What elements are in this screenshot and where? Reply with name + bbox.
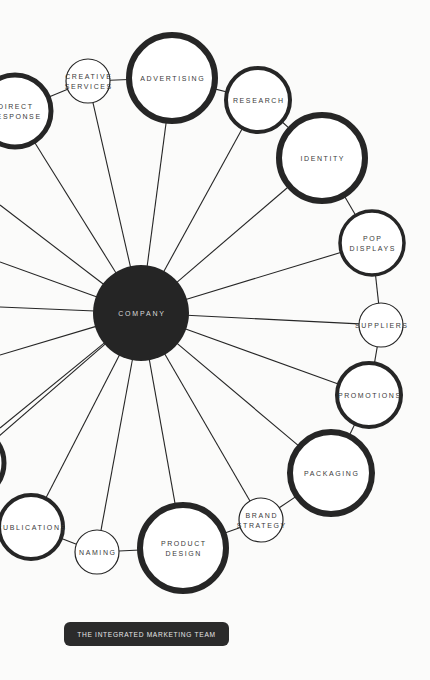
spoke-naming [101,358,133,530]
spoke-offscreen [0,307,95,311]
node-offscreen-node [0,427,4,499]
node-label: POP [363,235,383,242]
node-research: RESEARCH [226,68,290,132]
ring-link-direct-response-creative-services [48,89,67,97]
node-label: BRAND [246,512,279,519]
node-identity: IDENTITY [279,115,365,201]
node-label: CREATIVE [65,73,112,80]
node-label: PRODUCT [161,540,207,547]
node-pop-displays: POPDISPLAYS [340,211,404,275]
node-label: DESIGN [166,550,202,557]
node-direct-response: DIRECTRESPONSE [0,75,51,147]
spoke-publications [46,354,120,499]
node-suppliers: SUPPLIERS [355,303,409,347]
spoke-advertising [147,121,166,268]
hub-company: COMPANY [93,265,189,361]
node-circle [239,498,283,542]
spoke-creative-services [93,102,131,268]
ring-link-suppliers-promotions [374,347,377,364]
spoke-direct-response [34,142,117,274]
nodes: DIRECTRESPONSECREATIVESERVICESADVERTISIN… [0,35,409,591]
node-label: PUBLICATIONS [0,524,67,531]
node-label: SUPPLIERS [355,322,409,329]
ring-link-product-design-naming [119,550,140,551]
node-naming: NAMING [75,530,119,574]
spoke-product-design [149,358,175,505]
node-label: SERVICES [65,83,113,90]
hub-label: COMPANY [118,310,165,317]
node-circle [340,211,404,275]
spoke-offscreen-node [0,343,106,439]
node-label: RESEARCH [233,97,285,104]
spoke-pop-displays [185,252,341,299]
node-packaging: PACKAGING [290,432,372,514]
spoke-suppliers [187,315,359,324]
spoke-offscreen [0,326,97,355]
node-publications: PUBLICATIONS [0,495,67,559]
caption-label: THE INTEGRATED MARKETING TEAM [77,631,215,638]
spoke-identity [176,186,289,283]
spoke-packaging [176,343,299,447]
ring-link-packaging-brand-strategy [279,496,297,508]
node-label: ADVERTISING [140,75,205,82]
spoke-offscreen [0,342,105,428]
node-circle [140,505,226,591]
spoke-research [163,128,242,273]
spoke-brand-strategy [164,353,250,501]
node-promotions: PROMOTIONS [337,363,402,427]
node-circle [66,59,110,103]
node-label: DIRECT [0,103,34,110]
ring-link-pop-displays-suppliers [375,275,378,303]
node-label: PROMOTIONS [338,392,402,399]
node-label: STRATEGY [237,522,287,529]
node-advertising: ADVERTISING [129,35,215,121]
integrated-marketing-diagram: DIRECTRESPONSECREATIVESERVICESADVERTISIN… [0,0,430,680]
node-creative-services: CREATIVESERVICES [65,59,113,103]
spoke-promotions [184,329,339,385]
node-circle [0,75,51,147]
node-label: PACKAGING [304,470,360,477]
ring-link-naming-publications [61,538,77,544]
node-product-design: PRODUCTDESIGN [140,505,226,591]
diagram-caption: THE INTEGRATED MARKETING TEAM [64,622,229,646]
node-brand-strategy: BRANDSTRATEGY [237,498,287,542]
node-circle [0,427,4,499]
node-label: NAMING [79,549,117,556]
spoke-offscreen [0,205,104,285]
ring-link-identity-pop-displays [344,195,356,215]
node-label: IDENTITY [300,155,345,162]
spoke-offscreen [0,262,98,297]
node-label: DISPLAYS [350,245,397,252]
node-label: RESPONSE [0,113,42,120]
